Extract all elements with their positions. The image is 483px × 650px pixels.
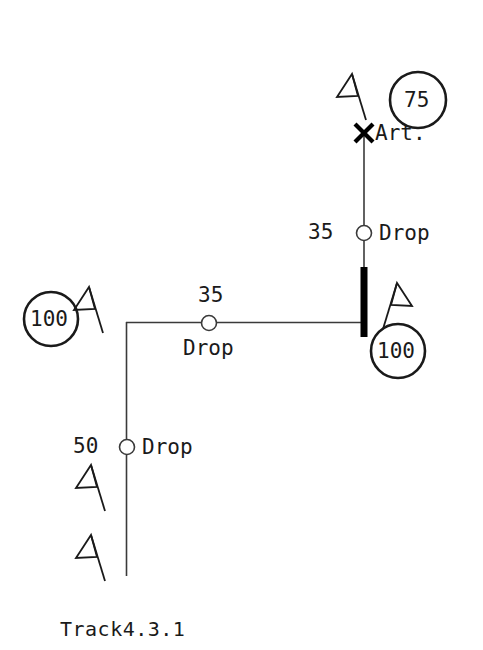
flag-icon-right-node: [383, 283, 412, 329]
speed-label-50: 50: [73, 436, 98, 457]
diagram-caption: Track4.3.1: [60, 617, 185, 641]
circle-node-75-label: 75: [404, 90, 429, 111]
track-lines: [126, 136, 364, 576]
drop-label-bottom: Drop: [142, 437, 193, 458]
circle-node-100-right-label: 100: [377, 341, 415, 362]
drop-marker-top-icon: [357, 226, 372, 241]
track-diagram: 75 Art. 35 Drop 35 Drop 100 100 50 Drop …: [0, 0, 483, 650]
speed-label-35-top: 35: [308, 222, 333, 243]
flag-icon-top: [337, 74, 366, 120]
drop-marker-middle-icon: [202, 316, 217, 331]
thick-bar-segment: [361, 267, 368, 337]
speed-label-35-middle: 35: [198, 285, 223, 306]
circle-node-100-left-label: 100: [30, 309, 68, 330]
drop-label-middle: Drop: [183, 338, 234, 359]
drop-marker-bottom-icon: [120, 440, 135, 455]
drop-label-top: Drop: [379, 223, 430, 244]
flag-icon-lower-2: [76, 535, 105, 581]
flag-icon-lower-1: [76, 465, 105, 511]
cross-marker-art-label: Art.: [375, 123, 426, 144]
